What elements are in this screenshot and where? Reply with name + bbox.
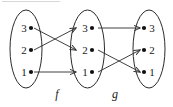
node-dot-codomain-g-3: [142, 26, 146, 30]
node-label-domain-2: 2: [19, 45, 29, 56]
node-label-codomain-g-2: 2: [147, 45, 157, 56]
node-dot-codomain-g-1: [142, 70, 146, 74]
mapping-diagram: 3 2 1 3 2 1 3 2 1 f g: [0, 0, 173, 107]
map-label-g: g: [112, 88, 118, 100]
node-dot-codomain-f-1: [90, 70, 94, 74]
map-label-f: f: [55, 88, 58, 100]
node-label-domain-3: 3: [19, 23, 29, 34]
node-label-domain-1: 1: [19, 67, 29, 78]
node-label-codomain-g-1: 1: [147, 67, 157, 78]
node-label-codomain-g-3: 3: [147, 23, 157, 34]
node-label-codomain-f-1: 1: [80, 67, 90, 78]
node-dot-codomain-f-3: [90, 26, 94, 30]
node-dot-domain-1: [29, 70, 33, 74]
node-label-codomain-f-3: 3: [80, 23, 90, 34]
node-dot-codomain-f-2: [90, 48, 94, 52]
node-label-codomain-f-2: 2: [80, 45, 90, 56]
node-dot-domain-3: [29, 26, 33, 30]
node-dot-codomain-g-2: [142, 48, 146, 52]
node-dot-domain-2: [29, 48, 33, 52]
